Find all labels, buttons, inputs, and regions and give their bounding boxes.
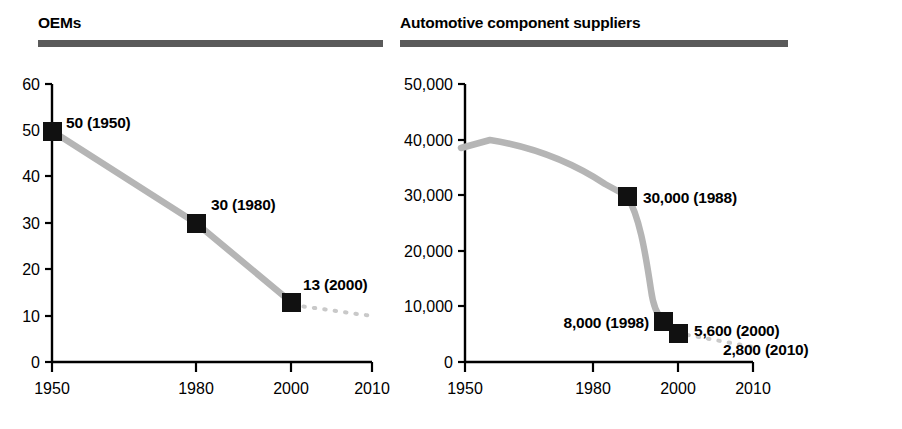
oems-x-ticks [52,362,372,372]
oems-ytick-0: 0 [31,354,40,371]
suppliers-xtick-2010: 2010 [735,380,771,397]
oems-xtick-1950: 1950 [34,380,70,397]
oems-chart-svg: 60 50 40 30 20 10 0 1950 1980 2000 201 [0,0,400,429]
suppliers-label-1988: 30,000 (1988) [643,189,737,206]
suppliers-marker-2000 [669,324,688,343]
suppliers-xtick-1980: 1980 [575,380,611,397]
oems-ytick-10: 10 [22,308,40,325]
oems-xtick-2010: 2010 [354,380,390,397]
suppliers-label-2010: 2,800 (2010) [723,341,809,358]
oems-ytick-50: 50 [22,122,40,139]
oems-xtick-2000: 2000 [273,380,309,397]
panel-oems: OEMs 60 50 40 [0,0,400,429]
suppliers-label-2000: 5,600 (2000) [694,322,780,339]
oems-xtick-1980: 1980 [178,380,214,397]
plot-area-suppliers: 50,000 40,000 30,000 20,000 10,000 0 195… [393,0,902,429]
plot-area-oems: 60 50 40 30 20 10 0 1950 1980 2000 201 [0,0,400,429]
suppliers-x-ticks [465,362,753,372]
oems-label-1980: 30 (1980) [211,196,276,213]
oems-ytick-60: 60 [22,76,40,93]
suppliers-ytick-50000: 50,000 [404,76,453,93]
suppliers-label-1998: 8,000 (1998) [564,314,650,331]
chart-page: OEMs 60 50 40 [0,0,902,429]
oems-marker-1980 [187,214,206,233]
suppliers-xtick-2000: 2000 [660,380,696,397]
suppliers-ytick-0: 0 [444,354,453,371]
panel-suppliers: Automotive component suppliers 50,000 [393,0,902,429]
oems-label-2000: 13 (2000) [303,276,368,293]
oems-ytick-30: 30 [22,215,40,232]
oems-projection-line [293,305,372,316]
oems-series-line [52,131,291,302]
suppliers-ytick-40000: 40,000 [404,132,453,149]
oems-ytick-40: 40 [22,168,40,185]
suppliers-marker-1988 [618,187,637,206]
suppliers-chart-svg: 50,000 40,000 30,000 20,000 10,000 0 195… [393,0,902,429]
oems-label-1950: 50 (1950) [66,114,131,131]
suppliers-ytick-10000: 10,000 [404,298,453,315]
oems-ytick-20: 20 [22,261,40,278]
oems-marker-2000 [282,293,301,312]
suppliers-series-line [461,140,663,321]
suppliers-ytick-30000: 30,000 [404,187,453,204]
suppliers-xtick-1950: 1950 [447,380,483,397]
suppliers-ytick-20000: 20,000 [404,243,453,260]
oems-marker-1950 [43,122,62,141]
